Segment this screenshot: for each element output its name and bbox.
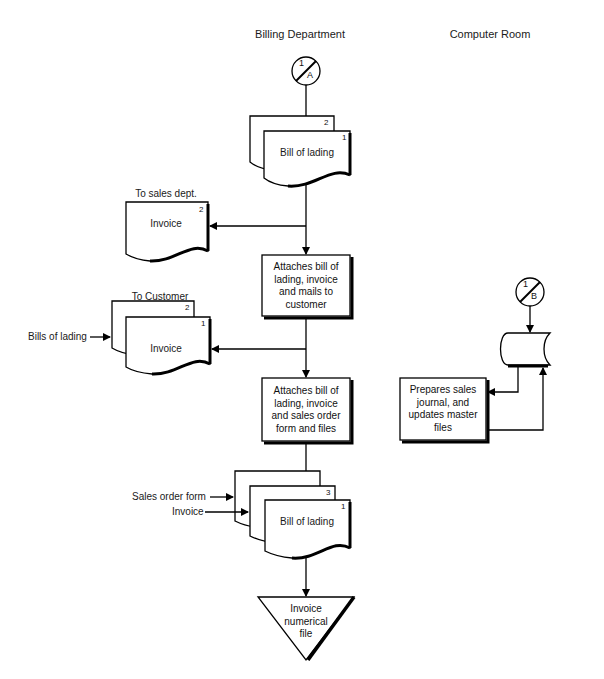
process-file-text: Attaches bill of lading, invoice and sal… xyxy=(262,385,350,435)
bill-of-lading-top-label: Bill of lading xyxy=(280,147,334,159)
copy-number: 2 xyxy=(185,303,189,312)
process-journal-text: Prepares sales journal, and updates mast… xyxy=(400,384,486,434)
copy-number: 1 xyxy=(341,502,345,511)
copy-number: 2 xyxy=(199,205,203,214)
copy-number: 1 xyxy=(342,133,346,142)
bills-of-lading-input-label: Bills of lading xyxy=(28,331,87,343)
connector-1b-bottom: B xyxy=(531,291,537,301)
connector-1a-icon xyxy=(292,57,320,85)
bill-of-lading-stack-bottom xyxy=(235,471,350,558)
connector-1a-bottom: A xyxy=(307,70,313,80)
invoice-sales-doc xyxy=(126,202,208,261)
column-title-billing: Billing Department xyxy=(255,28,345,40)
to-customer-label: To Customer xyxy=(132,291,189,303)
bill-of-lading-bottom-label: Bill of lading xyxy=(280,516,334,528)
copy-number: 1 xyxy=(201,319,205,328)
connector-1a-top: 1 xyxy=(299,58,304,68)
column-title-computer-room: Computer Room xyxy=(450,28,531,40)
to-sales-dept-label: To sales dept. xyxy=(135,188,197,200)
sales-order-form-input-label: Sales order form xyxy=(132,491,206,503)
connector-1b-top: 1 xyxy=(523,279,528,289)
master-file-disk-icon xyxy=(501,333,551,366)
invoice-input-label: Invoice xyxy=(172,506,204,518)
flowchart-canvas xyxy=(0,0,604,679)
invoice-customer-stack xyxy=(112,301,210,374)
connector-1b-icon xyxy=(516,278,544,306)
process-mail-text: Attaches bill of lading, invoice and mai… xyxy=(262,261,350,311)
copy-number: 3 xyxy=(326,488,330,497)
copy-number: 2 xyxy=(324,118,328,127)
invoice-numerical-file-text: Invoice numerical file xyxy=(266,603,346,641)
invoice-customer-label: Invoice xyxy=(150,343,182,355)
invoice-sales-label: Invoice xyxy=(150,218,182,230)
